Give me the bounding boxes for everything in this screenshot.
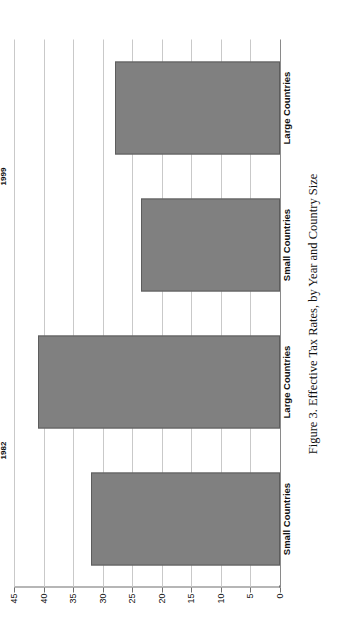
tick-10: [221, 587, 222, 592]
group-axis: 1982 1999: [0, 39, 14, 587]
bar-series: [14, 39, 280, 587]
bar-slot-0: [14, 450, 280, 587]
tick-15: [191, 587, 192, 592]
tick-25: [132, 587, 133, 592]
tick-45: [14, 587, 15, 592]
tick-label-15: 15: [187, 593, 196, 603]
tick-label-0: 0: [276, 593, 285, 598]
group-label-1999: 1999: [0, 39, 14, 313]
tick-label-25: 25: [128, 593, 137, 603]
group-label-1982: 1982: [0, 313, 14, 587]
tick-label-45: 45: [10, 593, 19, 603]
tick-label-30: 30: [98, 593, 107, 603]
tick-0: [280, 587, 281, 592]
bar-1982-small-countries[interactable]: [91, 472, 280, 565]
bar-slot-2: [14, 176, 280, 313]
tick-30: [103, 587, 104, 592]
plot-area: 454035302520151050: [14, 39, 280, 587]
bar-1999-large-countries[interactable]: [115, 61, 281, 154]
tick-35: [73, 587, 74, 592]
category-label-3: Large Countries: [282, 39, 302, 176]
tick-40: [44, 587, 45, 592]
bar-1999-small-countries[interactable]: [141, 198, 280, 291]
bar-slot-3: [14, 39, 280, 176]
category-label-2: Small Countries: [282, 176, 302, 313]
bar-1982-large-countries[interactable]: [38, 335, 280, 428]
tick-label-35: 35: [69, 593, 78, 603]
tick-5: [250, 587, 251, 592]
tick-label-5: 5: [246, 593, 255, 598]
figure-caption: Figure 3. Effective Tax Rates, by Year a…: [306, 0, 321, 627]
category-label-1: Large Countries: [282, 313, 302, 450]
bar-chart-figure: 1982 1999 454035302520151050 Small Count…: [0, 0, 338, 627]
tick-label-10: 10: [216, 593, 225, 603]
bar-slot-1: [14, 313, 280, 450]
category-axis: Small Countries Large Countries Small Co…: [282, 39, 302, 587]
tick-label-40: 40: [39, 593, 48, 603]
category-label-0: Small Countries: [282, 450, 302, 587]
tick-20: [162, 587, 163, 592]
figure-rotator: 1982 1999 454035302520151050 Small Count…: [0, 0, 338, 627]
tick-label-20: 20: [157, 593, 166, 603]
